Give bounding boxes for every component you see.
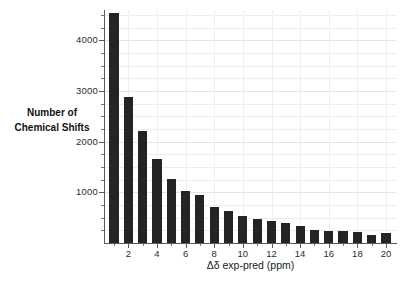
gridline-vertical [386, 10, 387, 243]
x-tick-label: 8 [202, 248, 226, 259]
y-tick-minor [101, 15, 104, 16]
y-tick-minor [101, 154, 104, 155]
gridline-horizontal-minor [104, 78, 396, 79]
x-axis-line [104, 243, 397, 244]
gridline-horizontal-minor [104, 104, 396, 105]
x-tick-minor [286, 244, 287, 246]
bar [296, 226, 305, 243]
y-axis-line [104, 10, 105, 244]
y-tick-label: 4000 [76, 34, 98, 45]
x-tick-label: 18 [345, 248, 369, 259]
bar [152, 159, 161, 243]
y-tick-minor [101, 78, 104, 79]
y-tick-minor [101, 53, 104, 54]
x-tick-minor [200, 244, 201, 246]
x-tick-label: 16 [317, 248, 341, 259]
gridline-horizontal-minor [104, 66, 396, 67]
gridline-horizontal [104, 91, 396, 92]
y-tick-minor [101, 180, 104, 181]
y-tick-minor [101, 230, 104, 231]
bar [253, 219, 262, 243]
y-tick-minor [101, 116, 104, 117]
gridline-vertical [329, 10, 330, 243]
bar [195, 195, 204, 243]
bar [124, 97, 133, 243]
y-tick [99, 40, 104, 41]
bar [138, 131, 147, 243]
x-tick-minor [343, 244, 344, 246]
x-tick-minor [114, 244, 115, 246]
bar [338, 231, 347, 243]
y-tick-minor [101, 104, 104, 105]
bar [109, 13, 118, 244]
bar [381, 233, 390, 243]
gridline-horizontal-minor [104, 129, 396, 130]
x-tick-label: 6 [174, 248, 198, 259]
gridline-horizontal-minor [104, 205, 396, 206]
y-tick-minor [101, 28, 104, 29]
y-tick [99, 91, 104, 92]
gridline-horizontal-minor [104, 180, 396, 181]
bar [367, 235, 376, 243]
x-tick-minor [143, 244, 144, 246]
gridline-horizontal-minor [104, 218, 396, 219]
x-tick-label: 10 [231, 248, 255, 259]
y-tick-label: 3000 [76, 85, 98, 96]
bar [238, 216, 247, 243]
x-tick-label: 20 [374, 248, 398, 259]
y-axis-title-line2: Chemical Shifts [6, 120, 98, 135]
gridline-horizontal-minor [104, 15, 396, 16]
bar [324, 231, 333, 243]
x-tick-minor [314, 244, 315, 246]
y-tick-label: 1000 [76, 186, 98, 197]
y-tick-minor [101, 66, 104, 67]
x-tick-minor [171, 244, 172, 246]
bar [181, 191, 190, 243]
x-axis-title: Δδ exp-pred (ppm) [104, 259, 397, 271]
y-tick-label-layer: 1000200030004000 [56, 0, 98, 282]
y-tick [99, 192, 104, 193]
gridline-horizontal-minor [104, 167, 396, 168]
gridline-horizontal [104, 142, 396, 143]
y-tick-minor [101, 167, 104, 168]
gridline-vertical [300, 10, 301, 243]
bar [267, 221, 276, 243]
gridline-horizontal-minor [104, 53, 396, 54]
x-tick-label: 2 [116, 248, 140, 259]
bar [224, 211, 233, 243]
x-tick-label: 12 [260, 248, 284, 259]
gridline-horizontal-minor [104, 230, 396, 231]
gridline-horizontal [104, 40, 396, 41]
y-tick-minor [101, 129, 104, 130]
y-tick-minor [101, 218, 104, 219]
plot-area [104, 10, 396, 243]
y-tick [99, 142, 104, 143]
x-tick-minor [372, 244, 373, 246]
bar [281, 223, 290, 243]
gridline-vertical [272, 10, 273, 243]
gridline-horizontal [104, 192, 396, 193]
chart-figure: 1000200030004000 2468101214161820 Number… [0, 0, 406, 282]
x-tick-label: 4 [145, 248, 169, 259]
bar [167, 179, 176, 243]
bar [353, 232, 362, 243]
y-tick-label: 2000 [76, 136, 98, 147]
y-tick-minor [101, 205, 104, 206]
bar [310, 230, 319, 243]
y-axis-title: Number of Chemical Shifts [6, 105, 98, 135]
x-tick-minor [257, 244, 258, 246]
bar [210, 207, 219, 244]
gridline-horizontal-minor [104, 28, 396, 29]
gridline-vertical [243, 10, 244, 243]
x-tick-minor [229, 244, 230, 246]
y-axis-title-line1: Number of [6, 105, 98, 120]
gridline-horizontal-minor [104, 116, 396, 117]
gridline-vertical [357, 10, 358, 243]
x-tick-label: 14 [288, 248, 312, 259]
gridline-horizontal-minor [104, 154, 396, 155]
